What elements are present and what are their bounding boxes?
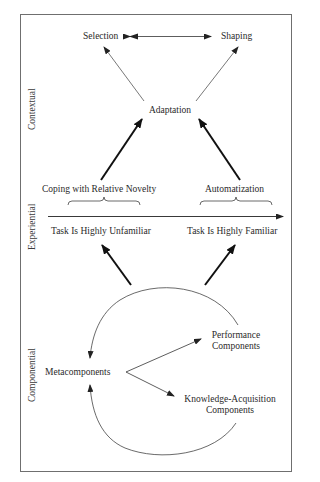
section-label-experiential: Experiential [27, 204, 37, 250]
familiar-label: Task Is Highly Familiar [187, 226, 277, 237]
automatization-to-adaptation-arrow [199, 119, 240, 180]
coping-label: Coping with Relative Novelty [42, 184, 156, 195]
section-label-componential: Componential [27, 348, 37, 402]
selection-shaping-arrow [129, 34, 211, 40]
selection-label: Selection [83, 31, 118, 42]
components-to-unfamiliar-arrow [102, 245, 131, 285]
adaptation-label: Adaptation [149, 105, 191, 116]
section-label-contextual: Contextual [27, 88, 37, 130]
knowledge-acquisition-components-label: Knowledge-Acquisition Components [184, 394, 275, 416]
knowledge-line2: Components [184, 405, 275, 416]
shaping-label: Shaping [221, 31, 252, 42]
coping-brace [68, 197, 140, 205]
adaptation-to-selection-arrow [104, 47, 144, 101]
metacomponents-label: Metacomponents [45, 367, 110, 378]
automatization-brace [200, 197, 272, 205]
performance-components-label: Performance Components [212, 330, 261, 352]
knowledge-line1: Knowledge-Acquisition [184, 394, 275, 405]
performance-line2: Components [212, 341, 261, 352]
performance-line1: Performance [212, 330, 261, 341]
meta-to-performance-arrow [126, 339, 201, 372]
meta-to-knowledge-arrow [126, 372, 174, 396]
automatization-label: Automatization [205, 184, 264, 195]
adaptation-to-shaping-arrow [196, 47, 238, 101]
unfamiliar-label: Task Is Highly Unfamiliar [51, 226, 151, 237]
coping-to-adaptation-arrow [101, 119, 142, 180]
components-to-familiar-arrow [205, 245, 235, 285]
